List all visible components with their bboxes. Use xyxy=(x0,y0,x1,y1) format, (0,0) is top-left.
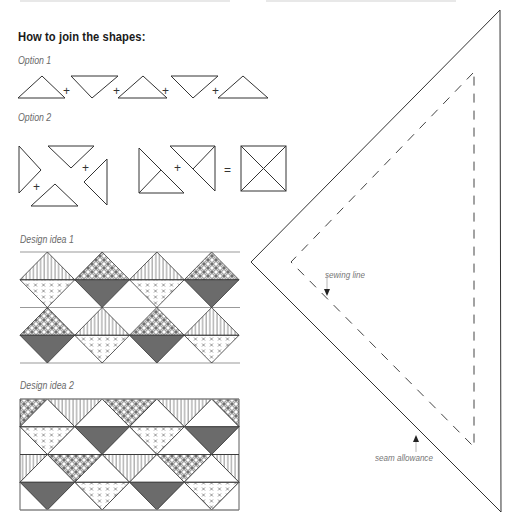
triangle-up xyxy=(18,76,65,98)
illustration-canvas: + + + + + + + = xyxy=(0,0,515,524)
svg-text:=: = xyxy=(224,163,231,177)
diamond-top-stripes xyxy=(184,308,239,336)
diamond-top-stripes xyxy=(130,252,185,280)
design-idea-2 xyxy=(20,399,239,510)
diamond-bottom-solid xyxy=(184,280,239,308)
option-2-pair xyxy=(139,146,286,193)
template-triangle xyxy=(251,10,501,512)
sewing-line-arrowhead xyxy=(324,289,330,296)
svg-text:+: + xyxy=(63,84,70,98)
diamond-top-circles xyxy=(130,308,185,336)
diamond-bottom-solid xyxy=(20,335,75,363)
seam-allowance-arrowhead xyxy=(413,435,419,442)
diamond-top-circles xyxy=(184,252,239,280)
svg-text:+: + xyxy=(162,84,169,98)
diamond-top-stripes xyxy=(20,252,75,280)
triangle-up xyxy=(218,76,268,98)
diamond-bottom-solid xyxy=(130,335,185,363)
svg-text:+: + xyxy=(33,180,40,194)
design-idea-1 xyxy=(20,252,240,363)
svg-text:+: + xyxy=(174,161,181,175)
diamond-bottom-crosses xyxy=(75,335,130,363)
diamond-top-circles xyxy=(75,252,130,280)
diamond-top-stripes xyxy=(75,308,130,336)
triangle-up xyxy=(118,76,167,98)
option-1-row xyxy=(18,76,268,98)
triangle-down xyxy=(171,76,218,98)
diamond-bottom-crosses xyxy=(184,335,239,363)
cutting-line xyxy=(251,10,501,512)
diamond-bottom-crosses xyxy=(20,280,75,308)
diamond-bottom-solid xyxy=(75,280,130,308)
svg-text:+: + xyxy=(113,84,120,98)
diamond-bottom-crosses xyxy=(130,280,185,308)
triangle-down xyxy=(71,76,118,98)
option-2-pinwheel xyxy=(19,146,107,206)
svg-text:+: + xyxy=(82,161,89,175)
svg-text:+: + xyxy=(212,84,219,98)
diamond-top-circles xyxy=(20,308,75,336)
